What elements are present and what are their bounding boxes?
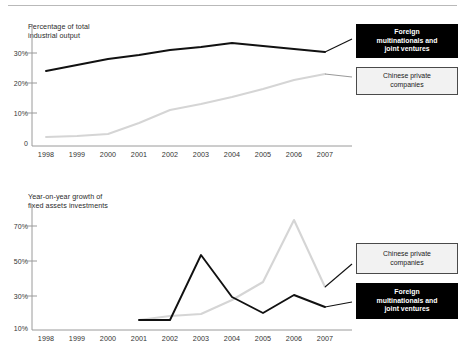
bottom-xtick-1999: 1999 [62, 334, 92, 343]
top-xtick-2000: 2000 [93, 150, 123, 159]
bottom-leader-foreign [325, 302, 352, 307]
top-legend-chinese-private: Chinese private companies [356, 67, 458, 95]
chart-panel-industrial-output: Percentage of total industrial output 30… [0, 14, 465, 180]
bottom-xtick-2001: 2001 [124, 334, 154, 343]
top-series-foreign-multinationals [46, 43, 325, 71]
top-xtick-2006: 2006 [279, 150, 309, 159]
bottom-xtick-2003: 2003 [186, 334, 216, 343]
top-series-chinese-private [46, 74, 325, 137]
top-xtick-2003: 2003 [186, 150, 216, 159]
bottom-legend-foreign-multinationals: Foreign multinationals and joint venture… [356, 283, 458, 319]
bottom-legend-chinese-private: Chinese private companies [356, 243, 458, 274]
chart-page: Percentage of total industrial output 30… [0, 0, 465, 351]
bottom-xtick-2002: 2002 [155, 334, 185, 343]
bottom-series-chinese-private [139, 220, 325, 320]
top-xtick-1998: 1998 [31, 150, 61, 159]
bottom-xtick-2000: 2000 [93, 334, 123, 343]
bottom-xtick-2006: 2006 [279, 334, 309, 343]
top-leader-chinese [325, 74, 352, 77]
bottom-series-foreign-multinationals [139, 255, 325, 320]
top-xtick-2001: 2001 [124, 150, 154, 159]
top-legend-foreign-multinationals: Foreign multinationals and joint venture… [356, 24, 458, 58]
bottom-xtick-1998: 1998 [31, 334, 61, 343]
top-xtick-2002: 2002 [155, 150, 185, 159]
top-xtick-2007: 2007 [310, 150, 340, 159]
bottom-xtick-2004: 2004 [217, 334, 247, 343]
bottom-xtick-2007: 2007 [310, 334, 340, 343]
bottom-xtick-2005: 2005 [248, 334, 278, 343]
top-xtick-2005: 2005 [248, 150, 278, 159]
bottom-leader-chinese [325, 264, 352, 287]
top-xtick-2004: 2004 [217, 150, 247, 159]
top-xtick-1999: 1999 [62, 150, 92, 159]
page-top-divider [8, 5, 457, 6]
chart-panel-fixed-assets-growth: Year-on-year growth of fixed assets inve… [0, 186, 465, 351]
top-leader-foreign [325, 39, 352, 52]
